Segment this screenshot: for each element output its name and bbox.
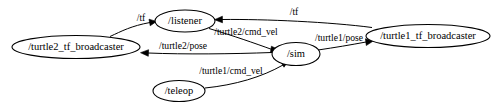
arrowhead-icon: [215, 16, 223, 23]
edge-label-turtle1-pose: /turtle1/pose: [315, 32, 363, 43]
edge-line: [148, 53, 272, 54]
node-turtle1-tf-broadcaster[interactable]: /turtle1_tf_broadcaster: [366, 25, 490, 48]
edge-tf-turtle2-to-listener[interactable]: /tf: [110, 12, 157, 36]
edge-turtle2-cmd-vel[interactable]: /turtle2/cmd_vel: [209, 26, 279, 52]
node-label-teleop: /teleop: [165, 85, 194, 96]
node-label-turtle1-tf-broadcaster: /turtle1_tf_broadcaster: [380, 30, 476, 41]
node-label-turtle2-tf-broadcaster: /turtle2_tf_broadcaster: [28, 41, 124, 52]
graph-canvas: /tf /turtle2/cmd_vel /turtle2/pose /tf /…: [0, 0, 496, 110]
edge-label-turtle2-cmd-vel: /turtle2/cmd_vel: [214, 26, 278, 37]
edge-label-turtle2-pose: /turtle2/pose: [159, 40, 207, 51]
ros-node-graph: /tf /turtle2/cmd_vel /turtle2/pose /tf /…: [0, 0, 496, 110]
edge-tf-turtle1-to-listener[interactable]: /tf: [215, 6, 373, 27]
edge-line: [110, 23, 150, 37]
node-turtle2-tf-broadcaster[interactable]: /turtle2_tf_broadcaster: [12, 36, 140, 59]
edge-label-tf-turtle1: /tf: [290, 6, 299, 17]
edge-turtle1-cmd-vel[interactable]: /turtle1/cmd_vel: [199, 61, 288, 88]
edge-turtle1-pose[interactable]: /turtle1/pose: [315, 32, 373, 50]
node-label-sim: /sim: [287, 48, 305, 59]
node-sim[interactable]: /sim: [272, 43, 320, 66]
edge-label-tf-turtle2: /tf: [137, 12, 146, 23]
edge-label-turtle1-cmd-vel: /turtle1/cmd_vel: [199, 65, 263, 76]
node-label-listener: /listener: [168, 15, 202, 26]
node-teleop[interactable]: /teleop: [153, 81, 205, 102]
arrowhead-icon: [141, 50, 149, 57]
node-listener[interactable]: /listener: [155, 10, 215, 32]
